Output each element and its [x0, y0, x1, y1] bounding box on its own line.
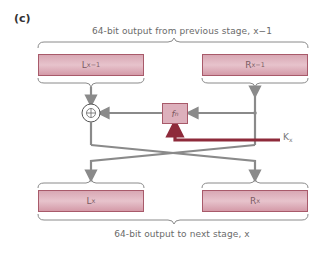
top-brace [38, 38, 308, 48]
round-key-label: Kx [283, 132, 292, 143]
round-function-box: fn [162, 103, 188, 124]
small-braces-bottom [38, 179, 308, 188]
register-l-prev: Lx−1 [38, 54, 144, 76]
register-r-next: Rx [202, 190, 308, 212]
bottom-caption: 64-bit output to next stage, x [18, 229, 328, 239]
key-sub: x [289, 136, 293, 143]
register-r-next-sub: x [256, 197, 260, 205]
register-l-prev-sub: x−1 [87, 61, 100, 69]
xor-operator [82, 104, 100, 122]
function-sub: n [175, 110, 179, 117]
register-r-prev: Rx−1 [202, 54, 308, 76]
small-braces-top [38, 78, 308, 87]
register-l-next: Lx [38, 190, 144, 212]
register-l-next-sub: x [92, 197, 96, 205]
register-r-prev-sub: x−1 [251, 61, 264, 69]
bottom-brace [38, 214, 308, 224]
feistel-diagram [0, 0, 328, 254]
